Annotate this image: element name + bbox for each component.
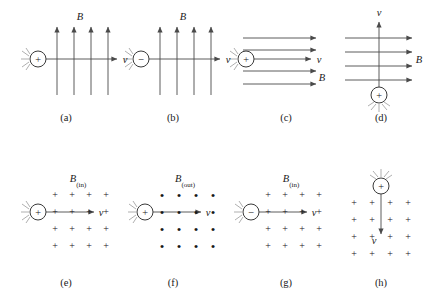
panel-label-c: (c) xyxy=(280,112,292,123)
panel-f-field-mark: • xyxy=(177,240,182,253)
panel-b-velocity-label: v xyxy=(226,54,231,65)
panel-e-field-mark: + xyxy=(86,207,92,217)
panel-a-velocity-label: v xyxy=(123,54,128,65)
panel-f-field-mark: • xyxy=(160,189,165,202)
panel-e-velocity-label: v xyxy=(99,207,104,218)
panel-d-field-label: B xyxy=(416,54,422,65)
panel-a-field-label: B xyxy=(77,11,83,22)
panel-f-charge-sign: + xyxy=(141,207,148,218)
panel-a-field-lines xyxy=(57,27,108,95)
panel-c-velocity-label: v xyxy=(317,54,322,65)
panel-b-field-lines xyxy=(160,27,211,95)
panel-d-field-lines xyxy=(345,38,412,80)
panel-g-field-label: B(in) xyxy=(283,173,300,187)
panel-h-field-mark: + xyxy=(405,215,411,225)
panel-e-field-mark: + xyxy=(52,190,58,200)
panel-g-field-mark: + xyxy=(282,207,288,217)
panel-label-e: (e) xyxy=(60,277,72,288)
panel-d-velocity-label: v xyxy=(377,7,382,18)
panel-f-field-mark: • xyxy=(177,206,182,219)
panel-h-field-mark: + xyxy=(387,215,393,225)
panel-e-field-mark: + xyxy=(69,224,75,234)
charge-glyph-layer xyxy=(21,48,392,223)
panel-g-field-mark: + xyxy=(299,207,305,217)
panel-f-field-mark: • xyxy=(211,189,216,202)
panel-h-field-mark: + xyxy=(387,249,393,259)
panel-c-field-label: B xyxy=(319,72,325,83)
panel-b-field-label: B xyxy=(180,11,186,22)
panel-f-field-mark: • xyxy=(177,189,182,202)
panel-e-field-mark: + xyxy=(103,241,109,251)
panel-e-field-mark: + xyxy=(52,241,58,251)
panel-g-velocity-label: v xyxy=(312,207,317,218)
vector-line-layer xyxy=(0,0,433,301)
panel-f-field-mark: • xyxy=(160,223,165,236)
panel-f-field-mark: • xyxy=(177,223,182,236)
panel-e-field-mark: + xyxy=(69,241,75,251)
panel-g-field-mark: + xyxy=(265,207,271,217)
panel-h-field-mark: + xyxy=(351,215,357,225)
panel-h-field-mark: + xyxy=(369,249,375,259)
panel-d-charge-sign: + xyxy=(375,90,382,101)
panel-f-field-label-sub: (out) xyxy=(181,181,195,189)
physics-figure-magnetic-force: + − + + + + − + ++++++++++++++++••••••••… xyxy=(0,0,433,301)
panel-e-field-mark: + xyxy=(86,190,92,200)
panel-g-field-mark: + xyxy=(265,224,271,234)
panel-f-field-mark: • xyxy=(211,206,216,219)
panel-e-field-mark: + xyxy=(103,224,109,234)
panel-a-charge-sign: + xyxy=(34,54,41,65)
panel-g-field-mark: + xyxy=(316,207,322,217)
panel-f-field-mark: • xyxy=(194,206,199,219)
panel-f-field-mark: • xyxy=(160,240,165,253)
panel-f-velocity-label: v xyxy=(206,207,211,218)
panel-h-velocity-label: v xyxy=(372,235,377,246)
panel-g-field-mark: + xyxy=(282,224,288,234)
panel-g-field-mark: + xyxy=(265,241,271,251)
panel-e-field-mark: + xyxy=(86,224,92,234)
panel-h-field-mark: + xyxy=(387,232,393,242)
panel-c-charge-sign: + xyxy=(242,54,249,65)
panel-e-field-mark: + xyxy=(52,207,58,217)
panel-f-field-mark: • xyxy=(194,240,199,253)
panel-g-field-mark: + xyxy=(316,241,322,251)
panel-f-field-label: B(out) xyxy=(175,173,195,187)
panel-g-field-mark: + xyxy=(299,190,305,200)
panel-e-field-mark: + xyxy=(69,190,75,200)
panel-e-field-mark: + xyxy=(103,190,109,200)
panel-g-field-label-sub: (in) xyxy=(289,181,299,189)
panel-h-field-mark: + xyxy=(351,198,357,208)
panel-f-field-mark: • xyxy=(194,223,199,236)
panel-e-field-mark: + xyxy=(69,207,75,217)
panel-h-field-mark: + xyxy=(405,249,411,259)
panel-f-field-mark: • xyxy=(160,206,165,219)
panel-e-field-label: B(in) xyxy=(70,173,87,187)
panel-g-field-mark: + xyxy=(316,190,322,200)
panel-g-field-mark: + xyxy=(316,224,322,234)
panel-label-h: (h) xyxy=(375,277,387,288)
panel-h-field-mark: + xyxy=(351,232,357,242)
panel-label-g: (g) xyxy=(280,277,292,288)
panel-g-charge-sign: − xyxy=(247,207,254,218)
panel-g-field-mark: + xyxy=(265,190,271,200)
panel-label-d: (d) xyxy=(375,112,387,123)
panel-h-field-mark: + xyxy=(351,249,357,259)
panel-g-field-mark: + xyxy=(282,190,288,200)
panel-h-charge-sign: + xyxy=(377,181,384,192)
panel-g-field-mark: + xyxy=(299,224,305,234)
panel-e-field-mark: + xyxy=(103,207,109,217)
panel-label-a: (a) xyxy=(60,112,72,123)
panel-f-field-mark: • xyxy=(194,189,199,202)
panel-h-field-mark: + xyxy=(405,232,411,242)
panel-label-b: (b) xyxy=(167,112,179,123)
panel-g-field-mark: + xyxy=(282,241,288,251)
panel-label-f: (f) xyxy=(168,277,179,288)
panel-e-field-mark: + xyxy=(86,241,92,251)
panel-b-charge-sign: − xyxy=(137,54,144,65)
panel-h-field-mark: + xyxy=(369,198,375,208)
panel-f-field-mark: • xyxy=(211,223,216,236)
panel-e-field-label-sub: (in) xyxy=(76,181,86,189)
panel-e-charge-sign: + xyxy=(34,207,41,218)
panel-g-field-mark: + xyxy=(299,241,305,251)
panel-h-field-mark: + xyxy=(405,198,411,208)
panel-e-field-mark: + xyxy=(52,224,58,234)
